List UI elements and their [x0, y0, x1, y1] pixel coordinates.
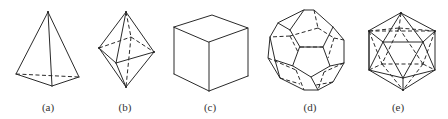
dodecahedron-drawing — [268, 10, 344, 90]
panel-label-c: (c) — [204, 101, 216, 113]
platonic-solids-figure — [0, 0, 448, 119]
panel-label-a: (a) — [42, 101, 54, 113]
tetrahedron-drawing — [16, 11, 79, 86]
icosahedron-drawing — [368, 12, 436, 91]
panel-label-d: (d) — [304, 101, 317, 113]
octahedron-drawing — [98, 11, 155, 88]
cube-drawing — [174, 15, 248, 91]
panel-label-b: (b) — [119, 101, 132, 113]
panel-label-e: (e) — [392, 101, 404, 113]
